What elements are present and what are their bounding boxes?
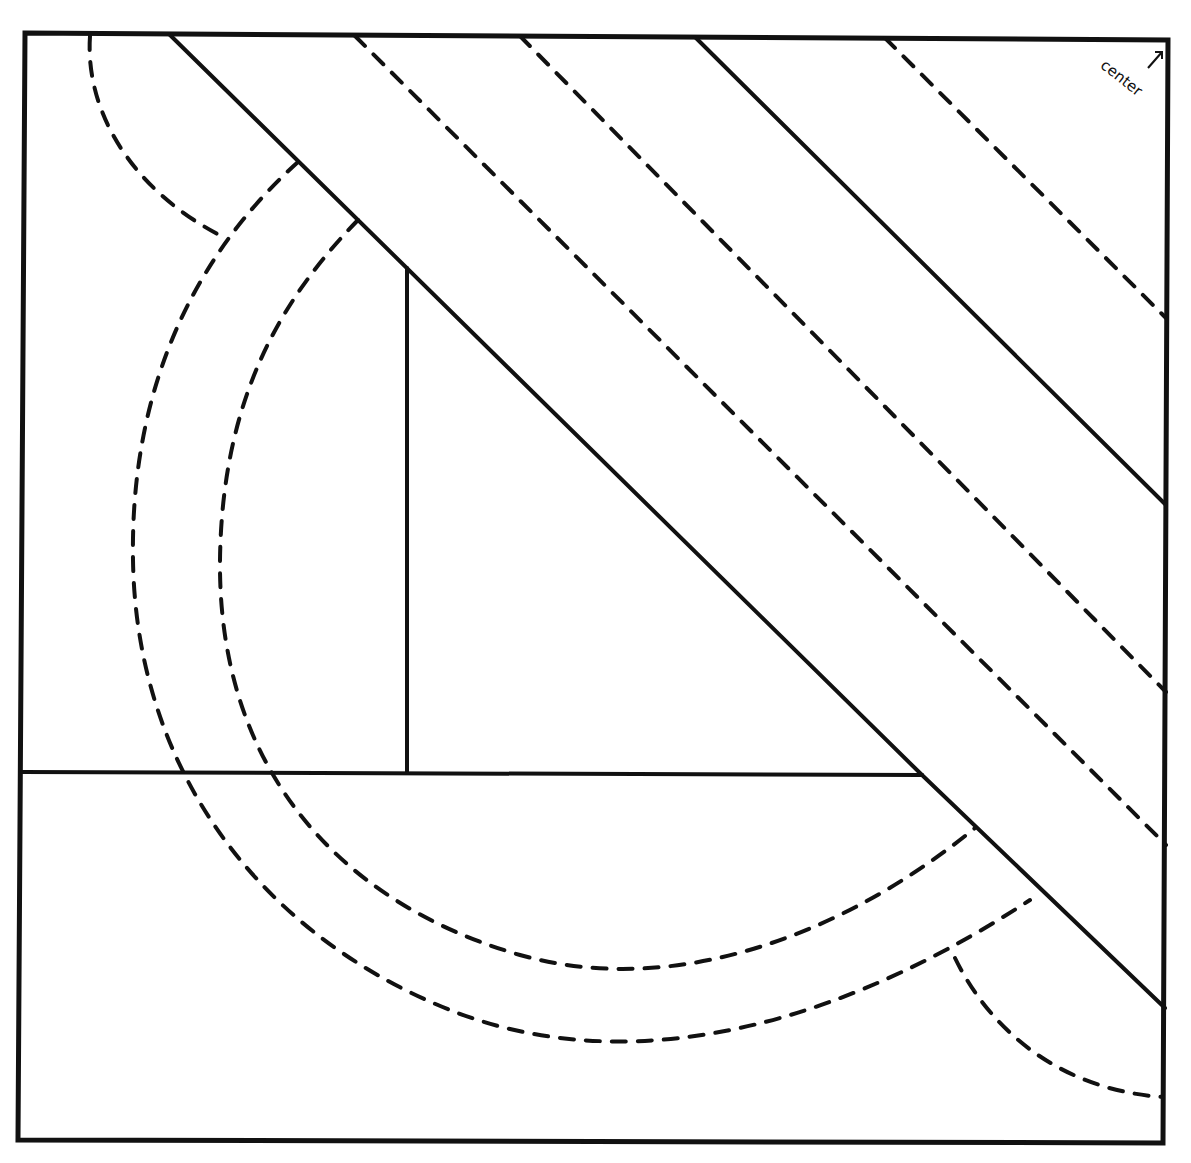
outer-arc [133,162,1030,1041]
center-arrow-icon [1148,52,1162,68]
corner-arc-top-left [90,36,225,238]
quilting-lines [355,36,1166,845]
quilting-curves [90,36,1163,1097]
block-frame [18,33,1168,1143]
seam-lines [22,35,1166,1008]
diagonal-seam-left [170,35,922,775]
horizontal-seam [22,772,922,775]
quilting-line-2 [520,36,1166,692]
inner-arc [220,220,975,969]
quilting-line-1 [355,36,1166,845]
diagonal-seam-right [695,37,1166,505]
quilt-pattern-diagram [0,0,1191,1163]
